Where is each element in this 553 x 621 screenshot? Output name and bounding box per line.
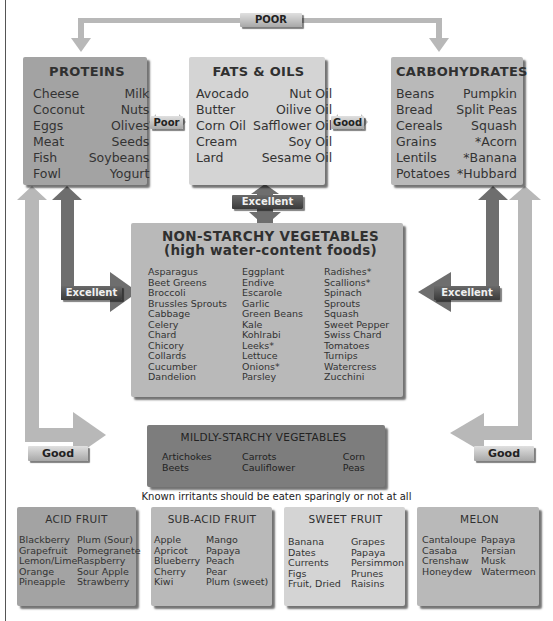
list-item: Soy Oil xyxy=(253,134,332,150)
proteins-box: PROTEINS Cheese Coconut Eggs Meat Fish F… xyxy=(23,57,147,185)
list-item: Strawberry xyxy=(77,577,141,588)
non-starchy-list: Asparagus Beet Greens Broccoli Brussles … xyxy=(148,267,393,383)
non-starchy-subtitle: (high water-content foods) xyxy=(148,243,393,257)
list-item: *Hubbard xyxy=(456,166,517,182)
non-starchy-vegetables-box: NON-STARCHY VEGETABLES (high water-conte… xyxy=(131,223,403,397)
list-item: Bread xyxy=(396,102,452,118)
list-item: Cheese xyxy=(33,86,85,102)
list-item: Carrots xyxy=(242,452,343,463)
acid-fruit-title: ACID FRUIT xyxy=(19,513,134,525)
list-item: Persimmon xyxy=(351,558,404,569)
melon-title: MELON xyxy=(422,513,537,525)
list-item: Fish xyxy=(33,150,85,166)
fats-oils-box: FATS & OILS Avocado Butter Corn Oil Crea… xyxy=(189,57,325,185)
list-item: Fruit, Dried xyxy=(288,579,351,590)
excellent-proteins-veg-label: Excellent xyxy=(61,286,122,300)
list-item: Corn Oil xyxy=(196,118,249,134)
carbohydrates-list: Beans Bread Cereals Grains Lentils Potat… xyxy=(396,86,517,182)
list-item: Lemon/Lime xyxy=(19,556,77,567)
excellent-fats-veg-label: Excellent xyxy=(232,195,303,209)
list-item: Corn xyxy=(343,452,365,463)
list-item: Cantaloupe xyxy=(422,535,481,546)
list-item: Spinach xyxy=(324,288,393,299)
list-item: Escarole xyxy=(242,288,324,299)
list-item: Grains xyxy=(396,134,452,150)
melon-box: MELON Cantaloupe Casaba Crenshaw Honeyde… xyxy=(417,507,539,606)
poor-proteins-fats-label: Poor xyxy=(150,116,183,129)
poor-top-label: POOR xyxy=(240,13,302,27)
list-item: Grapes xyxy=(351,537,404,548)
list-item: Swiss Chard xyxy=(324,330,393,341)
list-item: Kiwi xyxy=(154,577,206,588)
good-fats-carbs-label: Good xyxy=(331,116,364,129)
list-item: Peas xyxy=(343,463,365,474)
list-item: Nuts xyxy=(89,102,150,118)
carbohydrates-box: CARBOHYDRATES Beans Bread Cereals Grains… xyxy=(391,57,523,185)
list-item: Lentils xyxy=(396,150,452,166)
list-item: Artichokes xyxy=(162,452,242,463)
list-item: Parsley xyxy=(242,372,324,383)
list-item: Eggs xyxy=(33,118,85,134)
list-item: Oilive Oil xyxy=(253,102,332,118)
list-item: Olives xyxy=(89,118,150,134)
proteins-list: Cheese Coconut Eggs Meat Fish Fowl Milk … xyxy=(33,86,141,182)
list-item: Papaya xyxy=(481,535,537,546)
list-item: Blueberry xyxy=(154,556,206,567)
list-item: Collards xyxy=(148,351,242,362)
list-item: *Banana xyxy=(456,150,517,166)
list-item: Squash xyxy=(324,309,393,320)
list-item: Squash xyxy=(456,118,517,134)
list-item: Sesame Oil xyxy=(253,150,332,166)
sub-acid-fruit-title: SUB-ACID FRUIT xyxy=(154,513,270,525)
list-item: Apple xyxy=(154,535,206,546)
list-item: Yogurt xyxy=(89,166,150,182)
sweet-fruit-title: SWEET FRUIT xyxy=(288,513,403,525)
list-item: Plum (Sour) xyxy=(77,535,141,546)
fats-oils-title: FATS & OILS xyxy=(196,64,321,79)
list-item: Raisins xyxy=(351,579,404,590)
list-item: Mango xyxy=(206,535,270,546)
list-item: Soybeans xyxy=(89,150,150,166)
list-item: Peach xyxy=(206,556,270,567)
list-item: Zucchini xyxy=(324,372,393,383)
list-item: Currents xyxy=(288,558,351,569)
list-item: Broccoli xyxy=(148,288,242,299)
list-item: Butter xyxy=(196,102,249,118)
list-item: Beets xyxy=(162,463,242,474)
proteins-title: PROTEINS xyxy=(33,64,141,79)
list-item: *Acorn xyxy=(456,134,517,150)
carbohydrates-title: CARBOHYDRATES xyxy=(396,64,517,79)
acid-fruit-box: ACID FRUIT Blackberry Grapefruit Lemon/L… xyxy=(17,507,136,606)
list-item: Pineapple xyxy=(19,577,77,588)
list-item: Cereals xyxy=(396,118,452,134)
list-item: Plum (sweet) xyxy=(206,577,270,588)
list-item: Radishes* xyxy=(324,267,393,278)
list-item: Honeydew xyxy=(422,567,481,578)
sweet-fruit-list: Banana Dates Currents Figs Fruit, Dried … xyxy=(288,537,403,590)
list-item: Turnips xyxy=(324,351,393,362)
list-item: Raspberry xyxy=(77,556,141,567)
list-item: Cauliflower xyxy=(242,463,343,474)
mildly-starchy-list: Artichokes Beets Carrots Cauliflower Cor… xyxy=(162,452,365,473)
mildly-starchy-vegetables-box: MILDLY-STARCHY VEGETABLES Artichokes Bee… xyxy=(147,425,385,487)
list-item: Milk xyxy=(89,86,150,102)
list-item: Kohlrabi xyxy=(242,330,324,341)
list-item: Crenshaw xyxy=(422,556,481,567)
list-item: Asparagus xyxy=(148,267,242,278)
list-item: Fowl xyxy=(33,166,85,182)
list-item: Split Peas xyxy=(456,102,517,118)
melon-list: Cantaloupe Casaba Crenshaw Honeydew Papa… xyxy=(422,535,537,577)
list-item: Avocado xyxy=(196,86,249,102)
list-item: Banana xyxy=(288,537,351,548)
list-item: Meat xyxy=(33,134,85,150)
list-item: Potatoes xyxy=(396,166,452,182)
list-item: Seeds xyxy=(89,134,150,150)
list-item: Lard xyxy=(196,150,249,166)
irritants-note: Known irritants should be eaten sparingl… xyxy=(0,491,553,502)
list-item: Green Beans xyxy=(242,309,324,320)
sweet-fruit-box: SWEET FRUIT Banana Dates Currents Figs F… xyxy=(284,507,405,606)
mildly-starchy-title: MILDLY-STARCHY VEGETABLES xyxy=(162,431,365,443)
list-item: Pumpkin xyxy=(456,86,517,102)
sub-acid-fruit-list: Apple Apricot Blueberry Cherry Kiwi Mang… xyxy=(154,535,270,588)
list-item: Safflower Oil xyxy=(253,118,332,134)
